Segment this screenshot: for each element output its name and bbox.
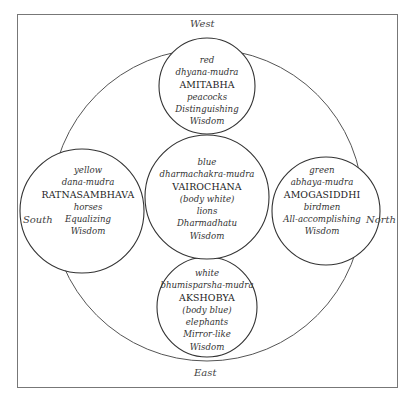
buddha-name: RATNASAMBHAVA (42, 189, 135, 201)
body-label: (body blue) (161, 304, 254, 316)
buddha-name: AMOGASIDDHI (283, 189, 360, 201)
direction-west: West (190, 18, 215, 29)
animal-label: elephants (161, 316, 254, 328)
wisdom-label: Mirror-like (161, 328, 254, 340)
color-label: white (161, 267, 254, 279)
mudra-label: dharmachakra-mudra (160, 168, 255, 180)
mudra-label: dhyana-mudra (175, 66, 238, 78)
wisdom-label-2: Wisdom (283, 225, 360, 237)
color-label: green (283, 164, 360, 176)
wisdom-label: Equalizing (42, 213, 135, 225)
color-label: yellow (42, 164, 135, 176)
animal-label: birdmen (283, 201, 360, 213)
wisdom-label: Dharmadhatu (160, 217, 255, 229)
wisdom-label-2: Wisdom (175, 115, 238, 127)
color-label: blue (160, 156, 255, 168)
buddha-amitabha: red dhyana-mudra AMITABHA peacocks Disti… (175, 54, 238, 128)
buddha-vairochana: blue dharmachakra-mudra VAIROCHANA (body… (160, 156, 255, 242)
buddha-ratnasambhava: yellow dana-mudra RATNASAMBHAVA horses E… (42, 164, 135, 238)
buddha-name: AMITABHA (175, 79, 238, 91)
buddha-amogasiddhi: green abhaya-mudra AMOGASIDDHI birdmen A… (283, 164, 360, 238)
wisdom-label-2: Wisdom (160, 230, 255, 242)
direction-east: East (194, 367, 216, 378)
wisdom-label-2: Wisdom (161, 341, 254, 353)
animal-label: horses (42, 201, 135, 213)
buddha-name: VAIROCHANA (160, 181, 255, 193)
mudra-label: dana-mudra (42, 176, 135, 188)
buddha-name: AKSHOBYA (161, 292, 254, 304)
mudra-label: bhumisparsha-mudra (161, 279, 254, 291)
animal-label: lions (160, 205, 255, 217)
wisdom-label: Distinguishing (175, 103, 238, 115)
buddha-akshobya: white bhumisparsha-mudra AKSHOBYA (body … (161, 267, 254, 353)
wisdom-label-2: Wisdom (42, 225, 135, 237)
mudra-label: abhaya-mudra (283, 176, 360, 188)
body-label: (body white) (160, 193, 255, 205)
direction-north: North (366, 214, 396, 225)
wisdom-label: All-accomplishing (283, 213, 360, 225)
animal-label: peacocks (175, 91, 238, 103)
color-label: red (175, 54, 238, 66)
